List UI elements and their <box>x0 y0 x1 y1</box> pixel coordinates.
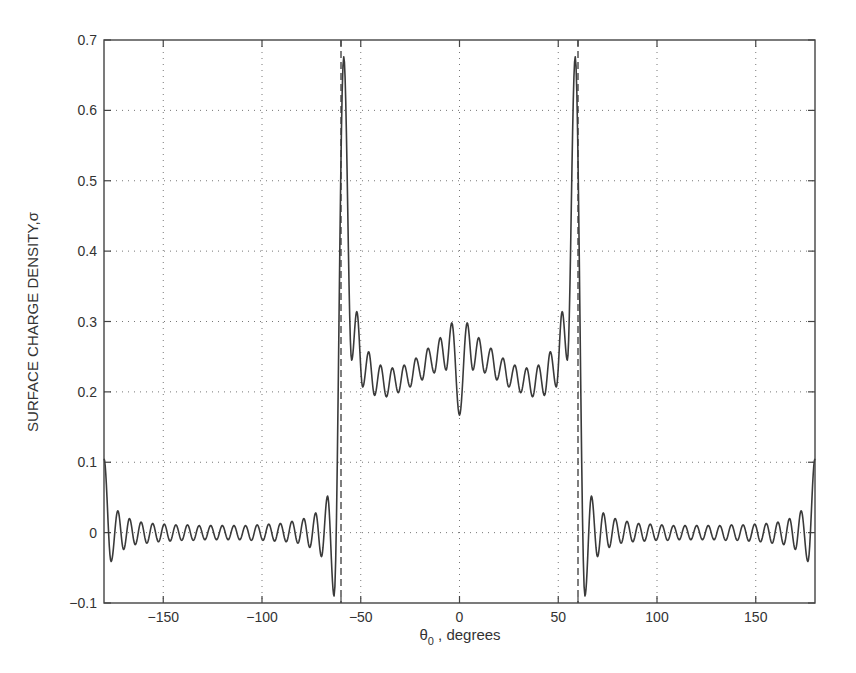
x-tick-label: 150 <box>744 609 768 625</box>
y-tick-label: 0.1 <box>78 454 98 470</box>
y-tick-label: 0.7 <box>78 32 98 48</box>
y-tick-label: 0.2 <box>78 384 98 400</box>
x-axis-label-symbol: θ <box>419 626 427 643</box>
x-tick-label: −50 <box>349 609 373 625</box>
surface-charge-density-chart: −150−100−50050100150 −0.100.10.20.30.40.… <box>0 0 856 673</box>
y-tick-label: 0.6 <box>78 102 98 118</box>
y-tick-label: 0.3 <box>78 314 98 330</box>
y-tick-label: −0.1 <box>69 595 97 611</box>
chart-background <box>0 0 856 673</box>
y-tick-label: 0 <box>89 525 97 541</box>
x-tick-label: −100 <box>246 609 278 625</box>
x-tick-label: −150 <box>147 609 179 625</box>
x-tick-label: 100 <box>645 609 669 625</box>
y-axis-label: SURFACE CHARGE DENSITY,σ <box>24 211 41 432</box>
x-tick-label: 50 <box>550 609 566 625</box>
y-tick-label: 0.5 <box>78 173 98 189</box>
x-tick-label: 0 <box>456 609 464 625</box>
x-axis-label-suffix: , degrees <box>434 626 501 643</box>
y-tick-label: 0.4 <box>78 243 98 259</box>
